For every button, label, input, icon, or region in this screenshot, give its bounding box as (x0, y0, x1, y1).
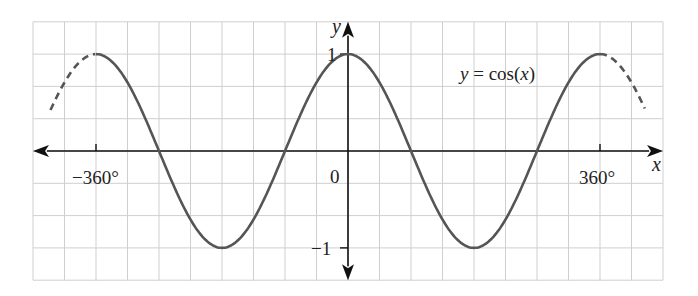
x-tick-label-neg360: −360° (72, 167, 119, 188)
curve-dashed-continuation (600, 54, 645, 108)
labels: y x 1 −1 −360° 0 360° y = cos(x) (72, 15, 661, 259)
x-axis-label: x (651, 153, 661, 175)
curve-dashed-continuation (51, 54, 96, 110)
y-tick-label-neg1: −1 (311, 238, 331, 259)
function-label: y = cos(x) (458, 63, 535, 85)
y-axis-label: y (330, 15, 341, 38)
y-tick-label-1: 1 (327, 44, 337, 65)
x-tick-label-360: 360° (579, 167, 615, 188)
cosine-graph: y x 1 −1 −360° 0 360° y = cos(x) (0, 0, 698, 296)
x-tick-label-0: 0 (330, 166, 340, 187)
